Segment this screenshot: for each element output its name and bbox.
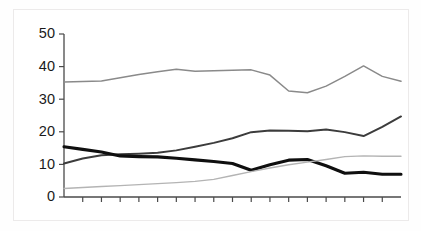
y-tick-label: 0 xyxy=(47,188,55,204)
series-line-series-top-grey xyxy=(64,66,401,93)
y-tick-label: 40 xyxy=(39,58,55,74)
chart-figure: 50403020100 xyxy=(0,0,421,231)
y-tick-label: 50 xyxy=(39,25,55,41)
y-tick-label: 20 xyxy=(39,123,55,139)
y-tick-label: 30 xyxy=(39,91,55,107)
line-chart: 50403020100 xyxy=(14,10,410,222)
series-line-series-declining-black xyxy=(64,147,401,174)
y-tick-label: 10 xyxy=(39,156,55,172)
chart-frame: 50403020100 xyxy=(13,9,409,221)
